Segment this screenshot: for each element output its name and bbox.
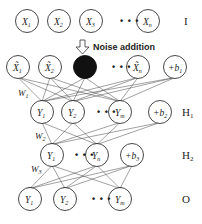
ellipsis: • • • (112, 62, 131, 72)
neuron-node: Ym (109, 188, 132, 211)
bias-node: +b3 (121, 144, 144, 167)
neuron-node: X̃2 (39, 56, 62, 79)
neuron-node: Xn (137, 10, 160, 33)
bias-node: +b1 (164, 56, 187, 79)
edge (42, 78, 175, 102)
noise-node (74, 56, 97, 79)
neuron-node: Y2 (62, 101, 85, 124)
layer-label-output: O (182, 193, 190, 205)
noise-arrow-icon (76, 40, 89, 54)
neuron-node: X3 (80, 10, 103, 33)
neuron-node: Y2 (54, 188, 77, 211)
weight-label: W3 (31, 164, 42, 175)
layer-label-h2: H2 (182, 149, 194, 163)
edge (18, 78, 120, 102)
neuron-node: X1 (16, 10, 39, 33)
neuron-node: Y1 (41, 144, 64, 167)
ellipsis: • • • (92, 194, 111, 204)
noise-addition-label: Noise addition (93, 42, 155, 52)
weight-label: W1 (18, 88, 29, 99)
neuron-node: Y1 (19, 188, 42, 211)
layer-label-input: I (184, 15, 188, 27)
neuron-node: Y1 (31, 101, 54, 124)
layer-label-h1: H1 (182, 106, 194, 120)
ellipsis: • • • (97, 107, 116, 117)
neuron-node: X̃1 (7, 56, 30, 79)
neuron-node: X2 (48, 10, 71, 33)
autoencoder-diagram: X1X2X3XnX̃1X̃2X̃n+b1Y1Y2Ym+b2Y1Yn+b3Y1Y2… (0, 0, 202, 224)
edge (42, 78, 85, 102)
ellipsis: • • • (75, 150, 94, 160)
bias-node: +b2 (149, 101, 172, 124)
edge (52, 166, 120, 189)
edge (97, 123, 120, 145)
ellipsis: • • • (120, 16, 139, 26)
edge (73, 123, 97, 145)
weight-label: W2 (35, 131, 46, 142)
